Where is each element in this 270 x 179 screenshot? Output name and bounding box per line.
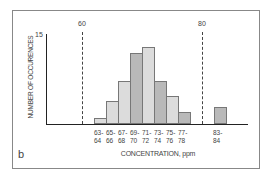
reference-line-80 <box>202 32 203 124</box>
x-tick-label: 77-78 <box>178 129 192 145</box>
y-axis-label: NUMBER OF OCCURENCES <box>27 35 34 118</box>
x-tick-label: 83-84 <box>213 129 227 145</box>
y-tick-15: 15 <box>35 31 43 38</box>
bar-83-84 <box>214 107 227 124</box>
bar-77-78 <box>178 112 191 124</box>
x-axis <box>46 124 248 125</box>
y-axis <box>46 34 47 125</box>
reference-line-60 <box>82 32 83 124</box>
panel-label: b <box>18 148 24 160</box>
reference-label-60: 60 <box>78 20 86 27</box>
reference-label-80: 80 <box>198 20 206 27</box>
x-axis-label: CONCENTRATION, ppm <box>121 150 195 157</box>
